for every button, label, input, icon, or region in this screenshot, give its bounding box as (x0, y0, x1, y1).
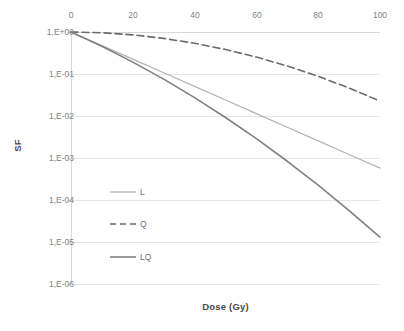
series-line-l (71, 32, 380, 168)
y-tick-label-1e-6: 1,E-06 (24, 279, 74, 289)
x-tick-label-0: 0 (51, 10, 91, 20)
chart-container: SF Dose (Gy) 1,E+00 1,E-01 1,E-02 1,E-03… (0, 0, 404, 331)
x-tick-label-60: 60 (237, 10, 277, 20)
x-tick-label-20: 20 (113, 10, 153, 20)
x-axis-title: Dose (Gy) (71, 301, 380, 312)
x-tick-label-100: 100 (360, 10, 400, 20)
legend-item-lq-label: LQ (140, 252, 151, 262)
y-tick-label-1e-2: 1,E-02 (24, 111, 74, 121)
y-tick-label-1e-3: 1,E-03 (24, 153, 74, 163)
legend-line-swatches (110, 192, 136, 257)
y-tick-label-1e-4: 1,E-04 (24, 195, 74, 205)
series-line-lq (71, 32, 380, 237)
y-tick-label-1e0: 1,E+00 (24, 27, 74, 37)
legend-item-q-label: Q (140, 219, 147, 229)
x-tick-label-80: 80 (298, 10, 338, 20)
series-line-q (71, 32, 380, 101)
y-tick-label-1e-5: 1,E-05 (24, 237, 74, 247)
data-series-group (71, 32, 380, 237)
y-axis-title: SF (12, 131, 23, 161)
gridlines-group (71, 32, 380, 284)
legend-item-l-label: L (140, 187, 145, 197)
y-tick-label-1e-1: 1,E-01 (24, 69, 74, 79)
x-tick-label-40: 40 (175, 10, 215, 20)
